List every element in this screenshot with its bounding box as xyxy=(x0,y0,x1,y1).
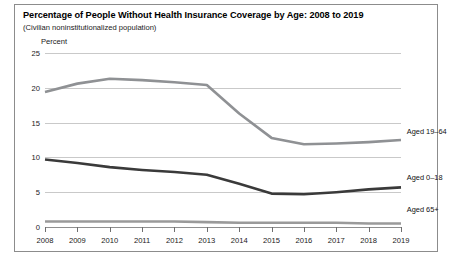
x-tick-label: 2012 xyxy=(166,236,183,245)
y-tick-label: 10 xyxy=(32,153,40,162)
x-tick-label: 2017 xyxy=(328,236,345,245)
y-tick-label: 0 xyxy=(36,223,40,232)
x-tick-label: 2008 xyxy=(37,236,54,245)
chart-title: Percentage of People Without Health Insu… xyxy=(23,10,363,20)
x-tick-label: 2014 xyxy=(231,236,248,245)
series-line xyxy=(45,221,401,223)
y-tick-label: 5 xyxy=(36,188,40,197)
series-line xyxy=(45,79,401,144)
series-line xyxy=(45,159,401,194)
x-tick xyxy=(174,227,175,232)
gridline xyxy=(45,227,401,228)
x-tick xyxy=(142,227,143,232)
x-tick xyxy=(207,227,208,232)
plot-area: 0510152025 20082009201020112012201320142… xyxy=(45,53,401,227)
x-tick xyxy=(77,227,78,232)
x-tick xyxy=(272,227,273,232)
x-tick-label: 2016 xyxy=(295,236,312,245)
y-axis-label: Percent xyxy=(41,37,67,46)
x-tick xyxy=(336,227,337,232)
y-tick-label: 15 xyxy=(32,118,40,127)
series-label: Aged 65+ xyxy=(407,205,439,214)
series-label: Aged 0–18 xyxy=(407,173,443,182)
chart-subtitle: (Civilian noninstitutionalized populatio… xyxy=(23,23,156,32)
chart-figure: Percentage of People Without Health Insu… xyxy=(14,4,438,252)
x-tick-label: 2010 xyxy=(101,236,118,245)
x-tick-label: 2011 xyxy=(134,236,150,245)
series-label: Aged 19–64 xyxy=(407,127,447,136)
x-tick xyxy=(369,227,370,232)
x-tick xyxy=(45,227,46,232)
x-tick-label: 2019 xyxy=(393,236,410,245)
x-tick xyxy=(401,227,402,232)
x-tick xyxy=(110,227,111,232)
x-tick xyxy=(239,227,240,232)
y-tick-label: 20 xyxy=(32,83,40,92)
x-tick-label: 2013 xyxy=(198,236,215,245)
x-tick-label: 2015 xyxy=(263,236,280,245)
series-lines xyxy=(45,53,401,227)
x-tick xyxy=(304,227,305,232)
y-tick-label: 25 xyxy=(32,49,40,58)
x-tick-label: 2009 xyxy=(69,236,86,245)
x-tick-label: 2018 xyxy=(360,236,377,245)
